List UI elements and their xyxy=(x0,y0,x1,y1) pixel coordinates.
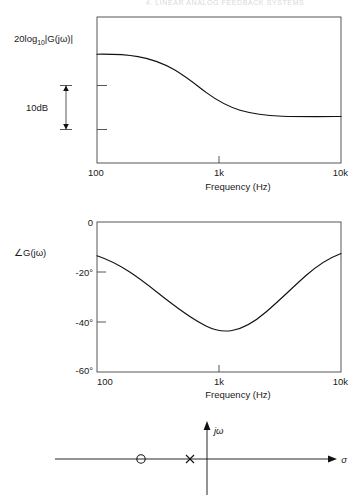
jomega-axis-label: jω xyxy=(212,425,224,436)
magnitude-xtick-label-10k: 10k xyxy=(333,167,349,178)
phase-bode-plot: ∠G(jω) 0 -20° -40° -60° 100 1k 10k Frequ… xyxy=(14,217,348,400)
scale-bar-arrow-up xyxy=(63,86,69,92)
phase-y-axis-label: ∠G(jω) xyxy=(14,247,46,258)
scale-bar-arrow-down xyxy=(63,124,69,130)
magnitude-curve xyxy=(97,54,341,116)
magnitude-y-axis-label: 20log10|G(jω)| xyxy=(14,33,73,46)
pole-zero-plot: σ jω xyxy=(55,421,348,495)
phase-xtick-label-100: 100 xyxy=(97,376,113,387)
phase-xtick-label-1k: 1k xyxy=(214,376,224,387)
magnitude-xtick-label-100: 100 xyxy=(88,167,104,178)
bode-and-pole-zero-figure: 20log10|G(jω)| 10dB 100 1k 10k Frequency xyxy=(0,0,363,501)
magnitude-scale-bar: 10dB xyxy=(26,86,72,130)
sigma-axis-label: σ xyxy=(341,454,348,465)
magnitude-y-axis-modulus: |G(jω)| xyxy=(45,33,73,44)
scale-bar-label: 10dB xyxy=(26,102,48,113)
phase-ytick-label-minus60: -60° xyxy=(75,365,93,376)
magnitude-x-axis-label: Frequency (Hz) xyxy=(205,181,270,192)
jomega-axis-arrow xyxy=(204,421,211,430)
phase-ytick-label-0: 0 xyxy=(88,217,93,228)
phase-ytick-label-minus20: -20° xyxy=(75,267,93,278)
phase-plot-frame xyxy=(97,222,341,372)
phase-ytick-label-minus40: -40° xyxy=(75,317,93,328)
figure-page: 4. LINEAR ANALOG FEEDBACK SYSTEMS 20log1… xyxy=(0,0,363,501)
magnitude-xtick-label-1k: 1k xyxy=(214,167,224,178)
phase-curve xyxy=(97,254,341,331)
phase-xtick-label-10k: 10k xyxy=(333,376,349,387)
sigma-axis-arrow xyxy=(328,456,337,463)
magnitude-y-axis-prefix: 20log xyxy=(14,33,37,44)
magnitude-bode-plot: 20log10|G(jω)| 10dB 100 1k 10k Frequency xyxy=(14,17,348,192)
phase-x-axis-label: Frequency (Hz) xyxy=(205,389,270,400)
magnitude-plot-frame xyxy=(97,17,341,163)
